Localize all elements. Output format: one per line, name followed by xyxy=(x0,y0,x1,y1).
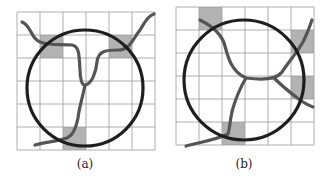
caption-a: (a) xyxy=(65,157,105,171)
panel-a xyxy=(17,12,155,150)
figure-canvas xyxy=(0,0,328,184)
caption-b: (b) xyxy=(224,157,264,171)
panel-b xyxy=(176,7,314,146)
